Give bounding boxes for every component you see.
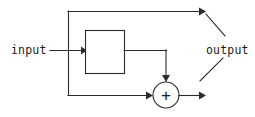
adder-out-arrowhead	[199, 92, 206, 100]
output-leader-upper	[206, 14, 225, 36]
output-label: output	[206, 43, 249, 57]
block-diagram: input +	[0, 0, 255, 117]
edge-bypass-to-adder	[68, 92, 153, 100]
edge-adder-to-output	[179, 92, 206, 100]
adder-plus-symbol: +	[161, 86, 171, 105]
block-out-arrowhead	[162, 75, 170, 82]
edge-block-to-adder	[124, 50, 170, 82]
edge-top-branch	[68, 8, 206, 16]
diagram-canvas: input +	[0, 0, 255, 117]
input-label: input	[11, 43, 47, 57]
output-leader-lower	[200, 58, 223, 81]
top-rail-arrowhead	[199, 8, 206, 16]
processing-block	[86, 31, 125, 74]
bypass-arrowhead	[146, 92, 153, 100]
